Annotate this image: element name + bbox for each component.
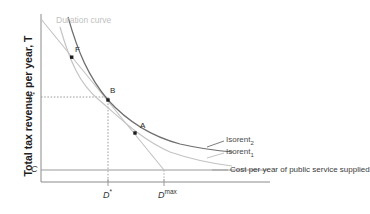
isorent1-label-main: Isorent (226, 147, 250, 156)
marker-point-b (106, 98, 109, 101)
legend-label-isorent2: Isorent2 (226, 136, 254, 146)
d-star-sup: * (110, 188, 113, 195)
x-tick-label-d-max: Dmax (158, 189, 177, 200)
isorent2-curve (68, 17, 233, 152)
isorent1-leader-line (207, 153, 224, 158)
duration-curve-line (41, 19, 164, 170)
marker-point-a (133, 131, 136, 134)
point-label-b: B (110, 87, 115, 95)
point-label-f: F (75, 46, 80, 54)
cost-line-label: Cost per year of public service supplied (230, 166, 370, 174)
d-max-sup: max (165, 188, 177, 195)
isorent2-label-sub: 2 (250, 140, 253, 146)
duration-curve-label: Duration curve (56, 16, 111, 25)
isorent2-label-main: Isorent (226, 135, 250, 144)
isorent1-label-sub: 1 (250, 152, 253, 158)
x-tick-label-d-star: D* (103, 189, 112, 200)
y-tick-label-t-star: T* (27, 92, 35, 103)
t-star-sup: * (33, 91, 36, 98)
legend-label-isorent1: Isorent1 (226, 148, 254, 158)
marker-point-f (70, 56, 73, 59)
y-tick-label-c: C (31, 165, 38, 174)
point-label-a: A (140, 122, 145, 130)
isorent2-leader-line (207, 141, 224, 147)
